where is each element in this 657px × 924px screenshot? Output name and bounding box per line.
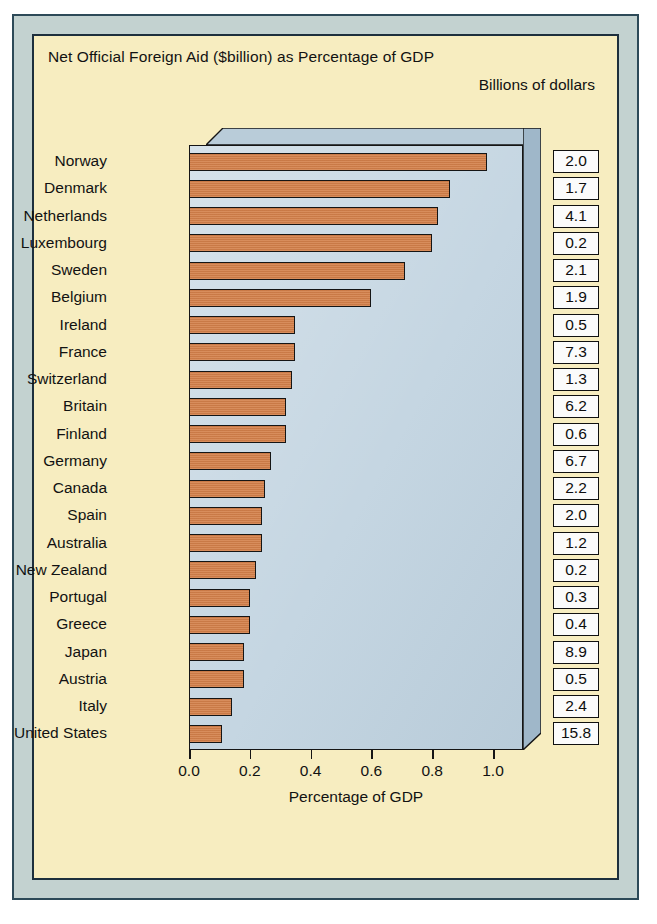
category-label: Finland	[0, 424, 107, 444]
bar	[189, 207, 438, 225]
x-axis-tick-label: 0.6	[348, 762, 394, 780]
x-axis-title: Percentage of GDP	[189, 788, 523, 806]
category-label: Australia	[0, 533, 107, 553]
category-label: Japan	[0, 642, 107, 662]
category-label: France	[0, 342, 107, 362]
category-label: Belgium	[0, 287, 107, 307]
value-box: 7.3	[553, 341, 599, 364]
bar	[189, 398, 286, 416]
bar-row: Australia1.2	[34, 531, 617, 558]
x-axis-tick-label: 0.0	[166, 762, 212, 780]
bar	[189, 452, 271, 470]
figure-panel: Net Official Foreign Aid ($billion) as P…	[32, 34, 619, 880]
bar-texture	[190, 453, 270, 469]
category-label: Norway	[0, 151, 107, 171]
bar	[189, 180, 450, 198]
bar-row: Germany6.7	[34, 449, 617, 476]
bar-texture	[190, 426, 285, 442]
bar-row: Switzerland1.3	[34, 367, 617, 394]
bar-texture	[190, 263, 404, 279]
bar	[189, 643, 244, 661]
bar-row: Austria0.5	[34, 667, 617, 694]
bar-texture	[190, 154, 486, 170]
value-box: 0.2	[553, 232, 599, 255]
category-label: New Zealand	[0, 560, 107, 580]
bar-row: Greece0.4	[34, 612, 617, 639]
bar	[189, 561, 256, 579]
value-box: 0.6	[553, 423, 599, 446]
value-box: 0.5	[553, 668, 599, 691]
category-label: Britain	[0, 396, 107, 416]
x-axis-tick	[493, 750, 495, 759]
x-axis-tick	[250, 750, 252, 759]
bar	[189, 234, 432, 252]
bar	[189, 371, 292, 389]
category-label: Switzerland	[0, 369, 107, 389]
bar-row: Finland0.6	[34, 422, 617, 449]
x-axis-tick-label: 0.8	[409, 762, 455, 780]
value-box: 1.7	[553, 177, 599, 200]
category-label: Greece	[0, 614, 107, 634]
category-label: Portugal	[0, 587, 107, 607]
bar	[189, 507, 262, 525]
bar-texture	[190, 372, 291, 388]
value-box: 6.7	[553, 450, 599, 473]
bar-row: United States15.8	[34, 721, 617, 748]
value-box: 0.5	[553, 314, 599, 337]
bar-row: Ireland0.5	[34, 313, 617, 340]
category-label: Germany	[0, 451, 107, 471]
x-axis-tick	[371, 750, 373, 759]
bar-row: Sweden2.1	[34, 258, 617, 285]
bar	[189, 343, 295, 361]
bar	[189, 289, 371, 307]
bar-texture	[190, 644, 243, 660]
category-label: Sweden	[0, 260, 107, 280]
x-axis-tick-label: 1.0	[470, 762, 516, 780]
bar-texture	[190, 344, 294, 360]
bar	[189, 316, 295, 334]
category-label: Spain	[0, 505, 107, 525]
value-box: 2.2	[553, 477, 599, 500]
bar-row: Portugal0.3	[34, 585, 617, 612]
bar-row: Denmark1.7	[34, 176, 617, 203]
bar	[189, 616, 250, 634]
bar-row: Canada2.2	[34, 476, 617, 503]
category-label: Ireland	[0, 315, 107, 335]
category-label: Italy	[0, 696, 107, 716]
bar-row: Netherlands4.1	[34, 204, 617, 231]
bar-texture	[190, 208, 437, 224]
x-axis-tick-label: 0.4	[288, 762, 334, 780]
bar	[189, 534, 262, 552]
plot-wrapper: Norway2.0Denmark1.7Netherlands4.1Luxembo…	[34, 36, 617, 878]
bar-texture	[190, 617, 249, 633]
value-box: 1.9	[553, 286, 599, 309]
bar	[189, 480, 265, 498]
bar	[189, 425, 286, 443]
value-box: 0.4	[553, 613, 599, 636]
bar-texture	[190, 508, 261, 524]
value-box: 2.0	[553, 504, 599, 527]
value-box: 1.2	[553, 532, 599, 555]
bar-row: France7.3	[34, 340, 617, 367]
x-axis-tick	[311, 750, 313, 759]
value-box: 1.3	[553, 368, 599, 391]
bar-texture	[190, 671, 243, 687]
bar-row: Luxembourg0.2	[34, 231, 617, 258]
bar-row: Britain6.2	[34, 394, 617, 421]
value-box: 2.1	[553, 259, 599, 282]
bar-texture	[190, 317, 294, 333]
figure-outer-frame: Net Official Foreign Aid ($billion) as P…	[12, 14, 639, 900]
category-label: Netherlands	[0, 206, 107, 226]
x-axis-tick	[189, 750, 191, 759]
bar-row: Italy2.4	[34, 694, 617, 721]
category-label: Canada	[0, 478, 107, 498]
bar-texture	[190, 290, 370, 306]
plot-3d-top-face	[206, 128, 539, 145]
value-box: 4.1	[553, 205, 599, 228]
bar-texture	[190, 590, 249, 606]
bar-texture	[190, 481, 264, 497]
x-axis-tick-label: 0.2	[227, 762, 273, 780]
bar	[189, 589, 250, 607]
bar-row: Belgium1.9	[34, 285, 617, 312]
bar-texture	[190, 562, 255, 578]
